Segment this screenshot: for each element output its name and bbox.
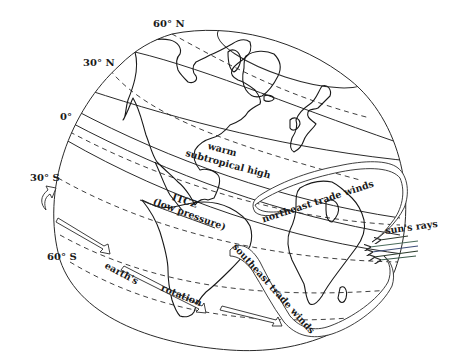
madagascar <box>338 287 347 303</box>
label-60s: 60° S <box>47 251 77 262</box>
latitude-line-c <box>66 140 410 255</box>
label-60n: 60° N <box>153 18 185 29</box>
trade-winds-diagram: 60° N 30° N 0° 30° S 60° S warm subtropi… <box>0 0 454 355</box>
label-earths: earth's <box>103 260 141 287</box>
label-30s: 30° S <box>30 172 60 183</box>
dashed-lat-1 <box>172 34 370 118</box>
arctic-ellipse <box>211 11 373 101</box>
rotation-arrow-3 <box>220 306 282 326</box>
sun-rays <box>370 236 418 260</box>
rotation-arrow-1 <box>56 218 110 254</box>
label-equator: 0° <box>60 111 72 122</box>
greenland-coast <box>243 51 280 97</box>
british-isles <box>290 118 300 130</box>
label-rotation: rotation <box>160 282 204 308</box>
latitude-line-60n <box>135 52 420 150</box>
label-suns-rays: sun's rays <box>384 218 438 236</box>
label-30n: 30° N <box>83 57 115 68</box>
